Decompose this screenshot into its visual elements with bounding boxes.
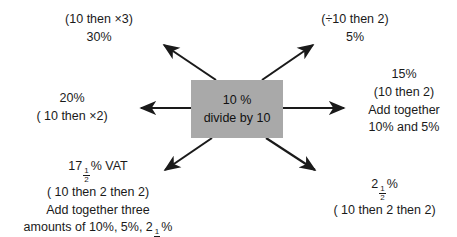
bottom-right-result-fraction-numerator: 1 <box>379 185 385 193</box>
center-box-line2: divide by 10 <box>204 109 271 127</box>
bottom-left-note-line1: Add together three <box>0 202 196 220</box>
bottom-left-result-prefix: 17 <box>68 159 82 173</box>
arrow-bottom-right <box>266 138 315 170</box>
top-left-result: 30% <box>24 29 174 47</box>
bottom-right-result-fraction: 12 <box>379 185 385 202</box>
right-note-line1: Add together <box>352 102 456 120</box>
bottom-left-note-fraction-numerator: 1 <box>154 228 160 236</box>
bottom-right-result-fraction-denominator: 2 <box>379 193 385 202</box>
branch-label-right: 15% (10 then 2) Add together 10% and 5% <box>352 66 456 137</box>
bottom-left-result-fraction: 12 <box>83 167 89 184</box>
diagram-canvas: 10 % divide by 10 (10 then ×3) 30% (÷10 … <box>0 0 457 237</box>
branch-label-bottom-left: 1712% VAT ( 10 then 2 then 2) Add togeth… <box>0 158 196 237</box>
bottom-left-note-line2-suffix: % <box>161 220 172 234</box>
bottom-right-result: 212% <box>312 176 457 202</box>
center-box-line1: 10 % <box>223 91 252 109</box>
bottom-left-result-fraction-numerator: 1 <box>83 167 89 175</box>
bottom-left-note-line2-prefix: amounts of 10%, 5%, 2 <box>24 220 153 234</box>
top-right-result: 5% <box>280 29 430 47</box>
branch-label-top-left: (10 then ×3) 30% <box>24 11 174 47</box>
top-left-method: (10 then ×3) <box>24 11 174 29</box>
bottom-left-note-fraction: 12 <box>154 228 160 237</box>
left-result: 20% <box>8 90 136 108</box>
bottom-right-result-suffix: % <box>387 177 398 191</box>
top-right-method: (÷10 then 2) <box>280 11 430 29</box>
branch-label-bottom-right: 212% ( 10 then 2 then 2) <box>312 176 457 220</box>
bottom-left-note-line2: amounts of 10%, 5%, 212% <box>0 219 196 237</box>
bottom-left-result-suffix: % VAT <box>91 159 128 173</box>
right-result: 15% <box>352 66 456 84</box>
left-method: ( 10 then ×2) <box>8 108 136 126</box>
center-box: 10 % divide by 10 <box>191 80 283 138</box>
right-method: (10 then 2) <box>352 84 456 102</box>
right-note-line2: 10% and 5% <box>352 119 456 137</box>
arrow-top-left <box>164 45 216 80</box>
bottom-left-note-fraction-denominator: 2 <box>154 236 160 237</box>
arrow-top-right <box>262 45 313 80</box>
branch-label-left: 20% ( 10 then ×2) <box>8 90 136 126</box>
bottom-left-method: ( 10 then 2 then 2) <box>0 184 196 202</box>
branch-label-top-right: (÷10 then 2) 5% <box>280 11 430 47</box>
bottom-left-result-fraction-denominator: 2 <box>83 175 89 184</box>
bottom-right-method: ( 10 then 2 then 2) <box>312 202 457 220</box>
bottom-left-result: 1712% VAT <box>0 158 196 184</box>
bottom-right-result-prefix: 2 <box>371 177 378 191</box>
